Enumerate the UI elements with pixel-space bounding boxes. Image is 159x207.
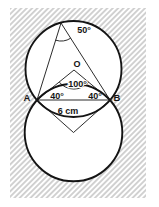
right-base-angle-label: 40° (88, 91, 102, 101)
left-base-angle-label: 40° (50, 91, 64, 101)
geometry-diagram: 50° O 100° 40° 40° 6 cm A B (0, 0, 159, 207)
central-angle-label: 100° (68, 79, 87, 89)
inscribed-angle-label: 50° (77, 25, 91, 35)
center-point-label: O (73, 59, 80, 69)
point-b-label: B (114, 92, 121, 103)
figure-canvas: 50° O 100° 40° 40° 6 cm A B (0, 0, 159, 207)
point-a-label: A (24, 92, 31, 103)
chord-length-label: 6 cm (58, 106, 79, 116)
